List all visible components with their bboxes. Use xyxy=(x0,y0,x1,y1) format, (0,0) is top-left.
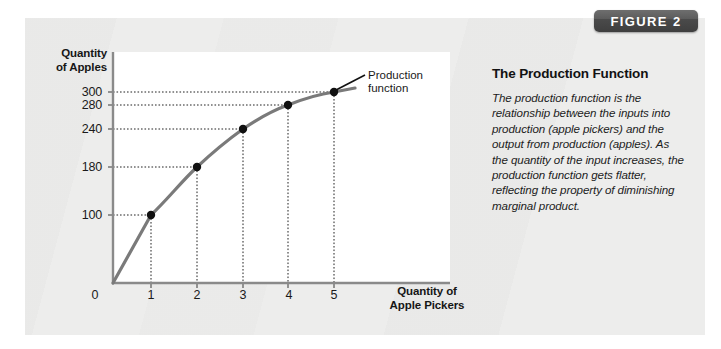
caption-block: The Production Function The production f… xyxy=(492,66,688,213)
curve-label: Production function xyxy=(368,69,423,95)
figure-number-badge: FIGURE 2 xyxy=(594,10,698,32)
caption-title: The Production Function xyxy=(492,66,688,81)
production-function-curve xyxy=(113,88,355,283)
data-point-1 xyxy=(147,211,155,219)
caption-body: The production function is the relations… xyxy=(492,90,688,213)
curve-label-line-2: function xyxy=(368,82,423,95)
gridlines-horizontal xyxy=(113,92,334,215)
figure-root: FIGURE 2 Quantity of Apples Quantity of … xyxy=(0,0,721,349)
curve-label-line-1: Production xyxy=(368,69,423,82)
data-point-3 xyxy=(239,125,247,133)
data-point-4 xyxy=(284,101,292,109)
data-point-2 xyxy=(193,163,201,171)
figure-number-label: FIGURE 2 xyxy=(610,14,681,29)
